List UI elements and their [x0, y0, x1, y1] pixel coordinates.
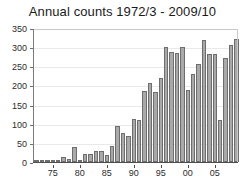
bar: [202, 40, 206, 162]
bar: [121, 133, 125, 162]
y-tick-mark: [30, 67, 33, 68]
x-axis-tick-labels: 75808590950005: [0, 165, 245, 188]
axis-spine-right: [237, 29, 238, 163]
bar: [88, 154, 92, 162]
x-tick-label: 95: [156, 168, 166, 178]
bar: [94, 151, 98, 162]
bar: [159, 78, 163, 162]
bar: [105, 155, 109, 162]
bar: [164, 47, 168, 162]
bar: [148, 83, 152, 162]
bar-chart-figure: Annual counts 1972/3 - 2009/10 050100150…: [0, 0, 245, 188]
bar: [137, 120, 141, 162]
y-tick-mark: [30, 29, 33, 30]
y-tick-label: 300: [12, 43, 27, 53]
y-tick-mark: [30, 106, 33, 107]
bar: [207, 54, 211, 162]
bar: [186, 90, 190, 162]
axis-spine-bottom: [33, 162, 238, 163]
bar: [126, 136, 130, 162]
y-tick-label: 350: [12, 24, 27, 34]
bar: [83, 154, 87, 162]
bar: [175, 53, 179, 162]
y-tick-label: 150: [12, 101, 27, 111]
bar: [191, 74, 195, 162]
bar: [115, 126, 119, 162]
axis-spine-top: [33, 29, 238, 30]
y-tick-mark: [30, 125, 33, 126]
y-axis-tick-labels: 050100150200250300350: [0, 0, 31, 188]
bar-series: [33, 29, 238, 163]
y-tick-mark: [30, 48, 33, 49]
y-tick-label: 200: [12, 81, 27, 91]
bar: [142, 91, 146, 162]
y-tick-label: 100: [12, 120, 27, 130]
bar: [196, 64, 200, 162]
x-tick-label: 00: [183, 168, 193, 178]
x-tick-label: 90: [129, 168, 139, 178]
x-tick-label: 05: [210, 168, 220, 178]
y-tick-mark: [30, 144, 33, 145]
bar: [223, 58, 227, 162]
x-tick-label: 85: [102, 168, 112, 178]
bar: [169, 52, 173, 162]
x-tick-label: 75: [48, 168, 58, 178]
bar: [110, 146, 114, 162]
y-tick-label: 50: [17, 139, 27, 149]
chart-title: Annual counts 1972/3 - 2009/10: [0, 4, 245, 19]
y-tick-label: 250: [12, 62, 27, 72]
bar: [229, 45, 233, 162]
bar: [213, 54, 217, 162]
axis-spine-left: [33, 29, 34, 163]
bar: [180, 47, 184, 162]
bar: [153, 92, 157, 162]
plot-area: [33, 29, 238, 163]
bar: [218, 120, 222, 162]
y-tick-mark: [30, 86, 33, 87]
bar: [99, 151, 103, 162]
x-tick-label: 80: [75, 168, 85, 178]
bar: [132, 119, 136, 162]
y-tick-mark: [30, 163, 33, 164]
bar: [72, 147, 76, 162]
